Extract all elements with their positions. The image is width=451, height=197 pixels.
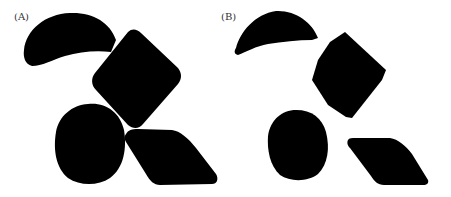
panel-b-blob bbox=[268, 110, 328, 180]
panel-a-leaf bbox=[125, 129, 218, 185]
panel-b-diamond bbox=[312, 32, 386, 118]
panel-b-crescent bbox=[235, 11, 318, 55]
panel-b bbox=[235, 11, 429, 185]
figure-canvas bbox=[0, 0, 451, 197]
panel-a-blob bbox=[55, 104, 125, 184]
panel-a bbox=[24, 13, 218, 185]
panel-b-leaf bbox=[347, 138, 428, 185]
panel-a-crescent bbox=[24, 13, 116, 66]
